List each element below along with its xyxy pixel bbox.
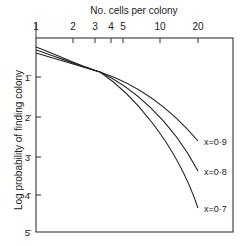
y-tick-labels: 1̄ 2̄ 3̄ 4̄ 5̄ — [25, 72, 32, 238]
curve-x-0.8 — [36, 50, 198, 171]
x-tick-label: 4 — [108, 21, 114, 32]
x-tick-label: 10 — [154, 21, 166, 32]
x-tick-label: 20 — [192, 21, 204, 32]
x-tick-label: 3 — [92, 21, 98, 32]
y-tick-label: 5̄ — [25, 227, 32, 238]
y-axis-label: Log probability of finding colony — [13, 70, 24, 210]
curve-label-0.7: x=0·7 — [204, 204, 227, 214]
x-axis-label: No. cells per colony — [90, 5, 177, 16]
curves — [36, 47, 198, 208]
y-tick-label: 2̄ — [25, 112, 32, 123]
plot-frame — [36, 38, 233, 232]
x-tick-label: 2 — [70, 21, 76, 32]
y-tick-label: 4̄ — [25, 190, 32, 201]
x-tick-label: 5 — [120, 21, 126, 32]
y-tick-label: 1̄ — [25, 72, 32, 83]
curve-x-0.7 — [36, 47, 198, 208]
chart: No. cells per colony 1 2 3 4 5 10 20 1̄ … — [0, 0, 248, 246]
x-tick-labels: 1 2 3 4 5 10 20 — [33, 21, 204, 32]
curve-labels: x=0·9 x=0·8 x=0·7 — [204, 137, 227, 214]
curve-x-0.9 — [36, 53, 198, 141]
curve-label-0.8: x=0·8 — [204, 167, 227, 177]
y-ticks — [36, 77, 41, 195]
x-ticks — [36, 22, 198, 43]
y-tick-label: 3̄ — [25, 152, 32, 163]
curve-label-0.9: x=0·9 — [204, 137, 227, 147]
